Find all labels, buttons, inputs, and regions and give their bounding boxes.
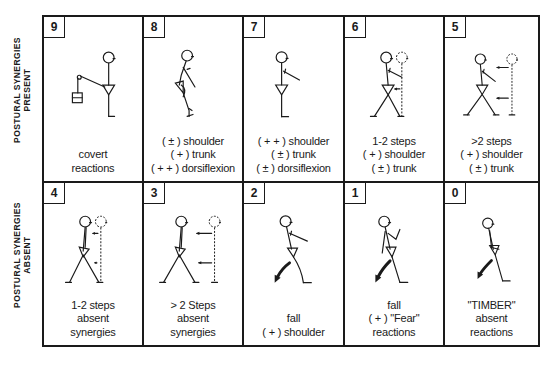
caption-line: reactions (44, 162, 142, 176)
row-label-line: POSTURAL SYNERGIES (12, 175, 22, 335)
caption-line: 1-2 steps (44, 299, 142, 313)
figure-steps-no-synergy-icon (44, 203, 142, 303)
row-label-line: ABSENT (22, 175, 32, 335)
score-description: >2 steps ( + ) shoulder ( ± ) trunk (445, 135, 538, 176)
score-description: ( ± ) shoulder ( + ) trunk ( + + ) dorsi… (144, 135, 242, 176)
caption-line: absent (445, 312, 538, 326)
caption-line: >2 steps (445, 135, 538, 149)
figure-fall-shoulder-icon (244, 203, 343, 303)
score-badge: 4 (44, 183, 65, 204)
cell-score-1: 1 fall ( + ) "Fear" reactions (345, 183, 445, 345)
caption-line: ( + + ) shoulder (244, 135, 343, 149)
caption-line: > 2 Steps (144, 299, 242, 313)
caption-line: fall (345, 299, 443, 313)
score-description: ( + + ) shoulder ( ± ) trunk ( ± ) dorsi… (244, 135, 343, 176)
score-badge: 3 (144, 183, 165, 204)
score-badge: 1 (345, 183, 366, 204)
figure-one-two-steps-icon (345, 37, 443, 137)
score-description: 1-2 steps absent synergies (44, 299, 142, 340)
caption-line: ( + + ) dorsiflexion (144, 162, 242, 176)
caption-line: fall (244, 312, 343, 326)
score-badge: 9 (44, 17, 65, 38)
score-description: fall ( + ) shoulder (244, 312, 343, 339)
score-description: covert reactions (44, 148, 142, 175)
caption-line: ( ± ) trunk (345, 162, 443, 176)
figure-pulley-weight-icon (44, 37, 142, 137)
cell-score-0: 0 "TIMBER" absent reactions (445, 183, 538, 345)
row-label-synergies-present: POSTURAL SYNERGIES PRESENT (12, 10, 32, 170)
caption-line: reactions (345, 326, 443, 340)
cell-score-5: 5 >2 steps ( + ) shoulder ( ± ) trunk (445, 17, 538, 183)
score-description: fall ( + ) "Fear" reactions (345, 299, 443, 340)
caption-line: ( + ) shoulder (244, 326, 343, 340)
figure-fall-fear-icon (345, 203, 443, 303)
score-badge: 6 (345, 17, 366, 38)
figure-timber-fall-icon (445, 203, 538, 303)
cell-score-8: 8 ( ± ) shoulder ( + ) trunk ( + + ) dor… (144, 17, 244, 183)
caption-line: synergies (144, 326, 242, 340)
caption-line: synergies (44, 326, 142, 340)
figure-many-steps-no-synergy-icon (144, 203, 242, 303)
row-label-line: POSTURAL SYNERGIES (12, 10, 22, 170)
score-description: "TIMBER" absent reactions (445, 299, 538, 340)
caption-line: "TIMBER" (445, 299, 538, 313)
caption-line: ( ± ) dorsiflexion (244, 162, 343, 176)
figure-dorsiflexion-sway-icon (144, 37, 242, 137)
score-badge: 0 (445, 183, 466, 204)
figure-arm-raised-icon (244, 37, 343, 137)
score-badge: 2 (244, 183, 265, 204)
score-badge: 5 (445, 17, 466, 38)
score-badge: 8 (144, 17, 165, 38)
caption-line: absent (44, 312, 142, 326)
cell-score-2: 2 fall ( + ) shoulder (244, 183, 345, 345)
caption-line: ( + ) trunk (144, 148, 242, 162)
cell-score-7: 7 ( + + ) shoulder ( ± ) trunk ( ± ) dor… (244, 17, 345, 183)
caption-line: ( + ) shoulder (445, 148, 538, 162)
caption-line: ( ± ) shoulder (144, 135, 242, 149)
score-description: 1-2 steps ( + ) shoulder ( ± ) trunk (345, 135, 443, 176)
caption-line: ( ± ) trunk (445, 162, 538, 176)
caption-line: reactions (445, 326, 538, 340)
score-description: > 2 Steps absent synergies (144, 299, 242, 340)
figure-more-than-two-steps-icon (445, 37, 538, 137)
cell-score-3: 3 > 2 Steps absent synergies (144, 183, 244, 345)
caption-line: ( + ) shoulder (345, 148, 443, 162)
cell-score-9: 9 covert reactions (44, 17, 144, 183)
score-badge: 7 (244, 17, 265, 38)
row-label-synergies-absent: POSTURAL SYNERGIES ABSENT (12, 175, 32, 335)
cell-score-4: 4 1-2 steps absent synergies (44, 183, 144, 345)
caption-line: ( + ) "Fear" (345, 312, 443, 326)
cell-score-6: 6 1-2 steps ( + ) shoulder ( ± ) trunk (345, 17, 445, 183)
caption-line: covert (44, 148, 142, 162)
caption-line: absent (144, 312, 242, 326)
caption-line: ( ± ) trunk (244, 148, 343, 162)
caption-line: 1-2 steps (345, 135, 443, 149)
row-label-line: PRESENT (22, 10, 32, 170)
scale-grid: 9 covert reactions 8 (42, 15, 540, 347)
